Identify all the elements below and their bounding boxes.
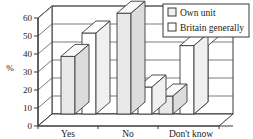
legend-label-britain-generally: Britain generally: [180, 23, 244, 33]
category-label-dontknow: Don't know: [169, 129, 213, 139]
y-tick-label-0: 0: [28, 121, 33, 131]
bar-no-ownunit: [117, 1, 145, 114]
chart-svg: 0 10 20 30 40 50 60 %: [0, 0, 253, 139]
plot-side-wall: [38, 6, 52, 126]
y-tick-label-40: 40: [23, 49, 33, 59]
legend-swatch-britain-generally: [168, 23, 176, 31]
category-label-no: No: [122, 129, 134, 139]
y-axis-title: %: [6, 63, 14, 73]
bar-yes-ownunit: [61, 44, 89, 114]
category-label-yes: Yes: [61, 129, 75, 139]
bar-chart: 0 10 20 30 40 50 60 %: [0, 0, 253, 139]
legend: Own unit Britain generally: [163, 4, 249, 37]
legend-swatch-own-unit: [168, 8, 176, 16]
y-tick-label-50: 50: [23, 31, 33, 41]
legend-label-own-unit: Own unit: [180, 8, 216, 18]
y-tick-label-30: 30: [23, 67, 33, 77]
y-tick-label-10: 10: [23, 103, 33, 113]
plot-floor: [38, 114, 233, 126]
y-tick-label-60: 60: [23, 13, 33, 23]
y-tick-label-20: 20: [23, 85, 33, 95]
